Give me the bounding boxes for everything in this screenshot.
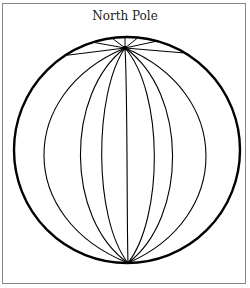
meridian-line xyxy=(80,48,128,263)
north-pole-point xyxy=(123,46,127,50)
meridian-line xyxy=(125,48,206,263)
meridian-line xyxy=(102,48,128,263)
meridian-line xyxy=(125,48,128,263)
meridian-line xyxy=(125,48,173,263)
globe-diagram xyxy=(0,0,250,288)
meridian-line xyxy=(44,48,128,263)
polar-cap-line xyxy=(95,43,125,48)
meridian-line xyxy=(125,48,154,263)
